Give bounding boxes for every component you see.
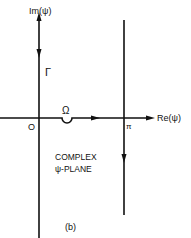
real-axis-arrowhead xyxy=(146,116,155,121)
complex-plane-diagram: Im(ψ) Γ Ω O π Re(ψ) COMPLEX ψ-PLANE (b) xyxy=(0,0,191,238)
origin-label: O xyxy=(28,122,35,132)
imaginary-axis-label: Im(ψ) xyxy=(29,6,51,16)
plane-caption-line2: ψ-PLANE xyxy=(55,164,92,174)
contour-right-arrow xyxy=(91,116,100,121)
pi-line-down-arrow xyxy=(122,154,127,163)
real-axis-label: Re(ψ) xyxy=(157,113,181,123)
gamma-label: Γ xyxy=(45,66,51,78)
pi-label: π xyxy=(126,122,132,131)
subfigure-label: (b) xyxy=(65,222,76,232)
gamma-down-arrow xyxy=(37,49,42,58)
omega-label: Ω xyxy=(62,105,70,116)
plane-caption-line1: COMPLEX xyxy=(55,152,97,162)
